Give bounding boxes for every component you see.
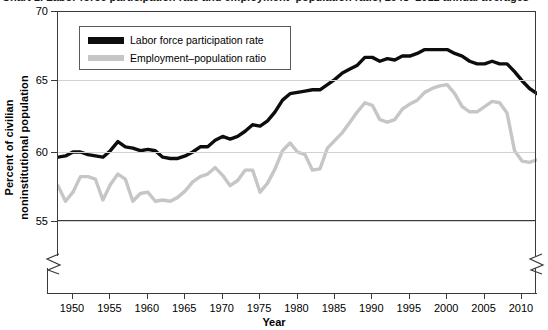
x-tick-label-1990: 1990	[351, 302, 391, 314]
x-tick-label-1970: 1970	[202, 302, 242, 314]
legend-swatch-epop	[88, 55, 124, 61]
x-tick-label-1975: 1975	[239, 302, 279, 314]
x-axis-title: Year	[0, 316, 548, 328]
legend-item-lfpr: Labor force participation rate	[88, 33, 264, 47]
x-tick-mark-1965	[184, 293, 185, 299]
axis-break-left-icon	[44, 253, 64, 275]
x-tick-mark-2005	[484, 293, 485, 299]
figure-caption-clipped: Chart 1. Labor force participation rate …	[0, 0, 548, 7]
x-tick-mark-1980	[297, 293, 298, 299]
legend-label-epop: Employment–population ratio	[130, 52, 266, 64]
y-axis-line	[57, 11, 58, 256]
y-tick-label-60: 60	[22, 147, 48, 158]
figure-caption-text: Chart 1. Labor force participation rate …	[2, 0, 529, 3]
figure-labor-force-chart: Chart 1. Labor force participation rate …	[0, 0, 548, 330]
gridline-60	[58, 152, 535, 153]
x-tick-mark-1955	[109, 293, 110, 299]
x-tick-mark-1960	[147, 293, 148, 299]
y-axis-title-line-1: Percent of civilian	[3, 40, 17, 255]
x-tick-mark-2000	[446, 293, 447, 299]
x-tick-label-1960: 1960	[127, 302, 167, 314]
axis-break-right-icon	[527, 253, 547, 275]
x-tick-label-2005: 2005	[464, 302, 504, 314]
gridline-55	[58, 221, 535, 222]
x-tick-mark-1995	[409, 293, 410, 299]
x-tick-label-1950: 1950	[52, 302, 92, 314]
y-tick-label-55: 55	[22, 216, 48, 227]
legend: Labor force participation rate Employmen…	[79, 26, 291, 70]
x-tick-mark-1975	[259, 293, 260, 299]
x-tick-label-1955: 1955	[89, 302, 129, 314]
legend-item-epop: Employment–population ratio	[88, 51, 266, 65]
gridline-65	[58, 80, 535, 81]
x-tick-label-2010: 2010	[501, 302, 541, 314]
y-tick-label-70: 70	[22, 6, 48, 17]
x-tick-label-1980: 1980	[277, 302, 317, 314]
x-tick-label-1985: 1985	[314, 302, 354, 314]
x-tick-mark-1990	[371, 293, 372, 299]
series-line	[58, 85, 537, 202]
x-tick-mark-1970	[222, 293, 223, 299]
legend-swatch-lfpr	[88, 37, 124, 44]
plot-right-border-extension	[535, 11, 536, 256]
x-tick-label-1995: 1995	[389, 302, 429, 314]
legend-label-lfpr: Labor force participation rate	[130, 34, 264, 46]
x-tick-label-2000: 2000	[426, 302, 466, 314]
y-tick-label-65: 65	[22, 75, 48, 86]
x-tick-mark-2010	[521, 293, 522, 299]
x-tick-mark-1985	[334, 293, 335, 299]
x-axis-line	[47, 293, 537, 294]
x-tick-mark-1950	[72, 293, 73, 299]
x-tick-label-1965: 1965	[164, 302, 204, 314]
